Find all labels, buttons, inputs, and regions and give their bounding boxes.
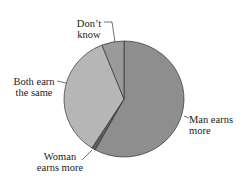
label-both-earn-same: Both earn the same	[10, 76, 58, 98]
label-man-earns-more: Man earns more	[189, 114, 233, 136]
leader-line	[112, 22, 115, 42]
label-line: Don’t	[74, 18, 104, 29]
leader-line	[57, 81, 66, 83]
label-dont-know: Don’t know	[74, 18, 104, 40]
label-line: know	[74, 29, 104, 40]
label-line: Man earns	[189, 114, 233, 125]
label-line: the same	[10, 87, 58, 98]
label-line: more	[189, 125, 233, 136]
label-line: Both earn	[10, 76, 58, 87]
leader-line	[82, 150, 92, 160]
label-line: earns more	[34, 162, 86, 173]
label-woman-earns-more: Woman earns more	[42, 151, 78, 173]
label-line: Woman	[42, 151, 78, 162]
